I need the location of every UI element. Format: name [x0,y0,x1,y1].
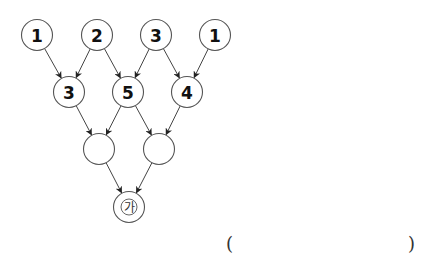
result-node-b1[interactable]: 가 [114,192,145,223]
arrow-t2-to-m2 [104,49,120,78]
answer-open-paren: ( [226,234,233,254]
node-circle [84,134,115,165]
number-node-m3: 4 [172,77,203,108]
arrow-l2-to-b1 [136,163,152,193]
node-label: 3 [63,83,75,103]
edges [45,49,209,193]
node-label: 5 [122,83,134,103]
answer-close-paren: ) [408,234,415,254]
number-node-t4: 1 [200,20,231,51]
number-node-m2: 5 [113,77,144,108]
arrow-m2-to-l1 [106,106,121,135]
node-label: 2 [91,26,103,46]
arrow-m3-to-l2 [166,106,180,135]
arrow-t3-to-m2 [135,49,149,78]
nodes: 1231354가 [22,20,231,223]
number-node-t3: 3 [141,20,172,51]
arrow-m1-to-l1 [76,106,91,135]
arrow-m2-to-l2 [135,106,151,135]
addition-pyramid-diagram: 1231354가 [0,0,428,261]
node-label: 4 [181,83,193,103]
arrow-t4-to-m3 [194,49,208,78]
marker-label: 가 [124,201,135,215]
answer-blank[interactable] [245,234,405,254]
number-node-m1: 3 [54,77,85,108]
node-circle [144,134,175,165]
arrow-t3-to-m3 [163,49,179,78]
blank-node-l1[interactable] [84,134,115,165]
arrow-l1-to-b1 [106,163,122,193]
node-label: 3 [150,26,162,46]
arrow-t2-to-m1 [76,49,90,78]
arrow-t1-to-m1 [45,49,62,79]
node-label: 1 [31,26,43,46]
number-node-t2: 2 [82,20,113,51]
blank-node-l2[interactable] [144,134,175,165]
number-node-t1: 1 [22,20,53,51]
node-label: 1 [209,26,221,46]
